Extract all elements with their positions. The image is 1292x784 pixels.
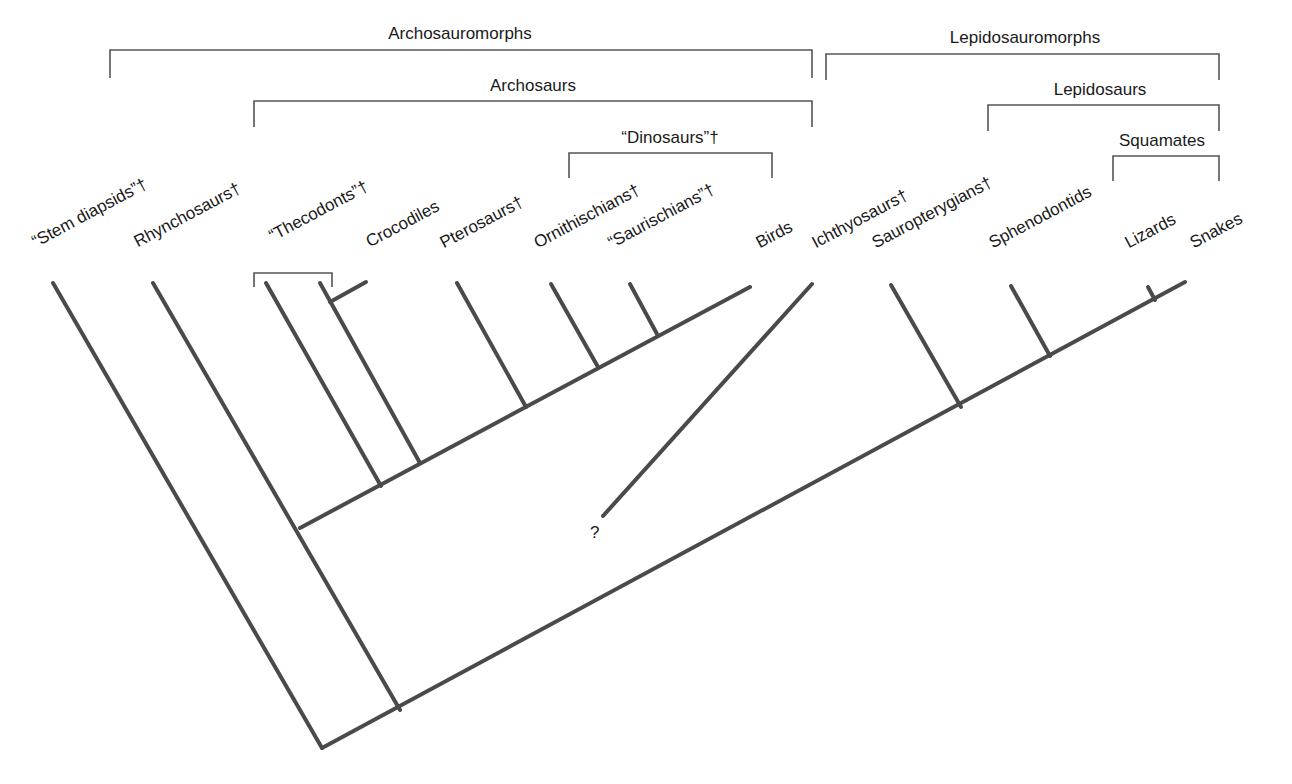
dinosaurs-bracket bbox=[569, 153, 772, 178]
lepidosauromorphs-label: Lepidosauromorphs bbox=[950, 28, 1100, 48]
pterosaurs-branch bbox=[457, 283, 526, 407]
thecodont-crocodile-branch bbox=[320, 283, 420, 463]
squamates-bracket bbox=[1113, 156, 1219, 181]
lepidosauromorphs-bracket bbox=[826, 54, 1219, 80]
stem-diapsids-branch bbox=[53, 283, 322, 748]
sphenodontids-branch bbox=[1011, 286, 1050, 356]
dinosaurs-label: “Dinosaurs”† bbox=[621, 128, 718, 148]
saurischians-branch bbox=[630, 284, 657, 334]
cladogram-canvas bbox=[0, 0, 1292, 784]
squamates-label: Squamates bbox=[1119, 131, 1205, 151]
ichthyosaurs-branch bbox=[603, 284, 812, 516]
uncertain-placement-marker: ? bbox=[590, 523, 599, 543]
sauropterygians-branch bbox=[891, 285, 961, 407]
lepidosaurs-bracket bbox=[988, 105, 1219, 131]
crocodiles-branch bbox=[330, 282, 366, 302]
archosaurs-label: Archosaurs bbox=[490, 76, 576, 96]
lepidosaurs-label: Lepidosaurs bbox=[1054, 80, 1147, 100]
thecodont-branch-1 bbox=[266, 283, 381, 486]
archosauromorphs-bracket bbox=[110, 50, 812, 78]
archosauromorphs-label: Archosauromorphs bbox=[388, 24, 532, 44]
ornithischians-branch bbox=[551, 284, 598, 367]
branches bbox=[53, 282, 1185, 748]
archosaurs-bracket bbox=[254, 101, 812, 127]
clade-brackets bbox=[110, 50, 1219, 287]
